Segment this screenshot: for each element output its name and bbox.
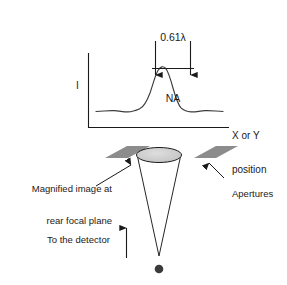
detector-label: To the detector — [47, 235, 110, 246]
apertures-label: Apertures — [232, 189, 273, 200]
formula-numerator: 0.61λ — [145, 32, 201, 45]
formula-fraction-bar — [152, 68, 194, 69]
x-axis-label-line2: position — [232, 164, 266, 175]
magnified-image-label-line2: rear focal plane — [6, 216, 112, 227]
formula-denominator: NA — [145, 92, 201, 105]
x-axis-label-line1: X or Y — [232, 130, 266, 141]
specimen-point-dot — [155, 265, 164, 274]
plot-x-axis-label: X or Y position — [232, 108, 266, 186]
magnified-image-label: Magnified image at rear focal plane — [6, 163, 112, 237]
rayleigh-formula: 0.61λ NA — [145, 8, 201, 117]
rear-focal-plane-ellipse — [137, 148, 182, 163]
plot-y-axis-label: I — [76, 80, 79, 91]
light-cone — [138, 157, 181, 257]
magnified-image-label-line1: Magnified image at — [6, 184, 112, 195]
optical-path-diagram — [96, 146, 238, 273]
leader-apertures — [209, 163, 224, 178]
